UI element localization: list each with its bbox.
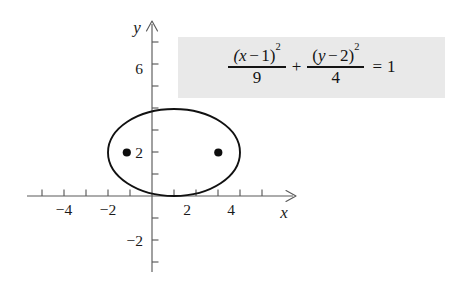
ellipse-figure: −4 −2 2 4 6 2 −2 y x (x−1)2 9 + (y−2)2 [0, 0, 453, 283]
equation-callout-box: (x−1)2 9 + (y−2)2 4 = 1 [178, 37, 445, 98]
numerator-x: (x−1)2 [228, 47, 285, 66]
denominator-x: 9 [248, 68, 267, 87]
exponent-y: 2 [354, 41, 359, 52]
y-tick-label-6: 6 [135, 60, 143, 77]
fraction-x-term: (x−1)2 9 [228, 47, 285, 87]
exponent-x: 2 [275, 41, 280, 52]
x-tick-label--4: −4 [56, 201, 73, 218]
denominator-y: 4 [327, 68, 346, 87]
x-tick-label--2: −2 [100, 201, 117, 218]
x-axis-label: x [279, 203, 288, 222]
fraction-y-term: (y−2)2 4 [307, 47, 364, 87]
focus-point-right [214, 148, 222, 156]
y-tick-label-2: 2 [135, 144, 143, 161]
right-hand-side: 1 [387, 57, 396, 77]
focus-point-left [123, 148, 131, 156]
y-tick-label--2: −2 [127, 232, 144, 249]
equals-operator: = [365, 57, 387, 77]
x-tick-label-4: 4 [227, 201, 235, 218]
numerator-y: (y−2)2 [307, 47, 364, 66]
plus-operator: + [287, 57, 307, 77]
y-axis-label: y [131, 18, 141, 37]
y-axis-ticks [152, 42, 159, 262]
x-tick-label-2: 2 [183, 201, 191, 218]
ellipse-equation: (x−1)2 9 + (y−2)2 4 = 1 [227, 47, 395, 88]
